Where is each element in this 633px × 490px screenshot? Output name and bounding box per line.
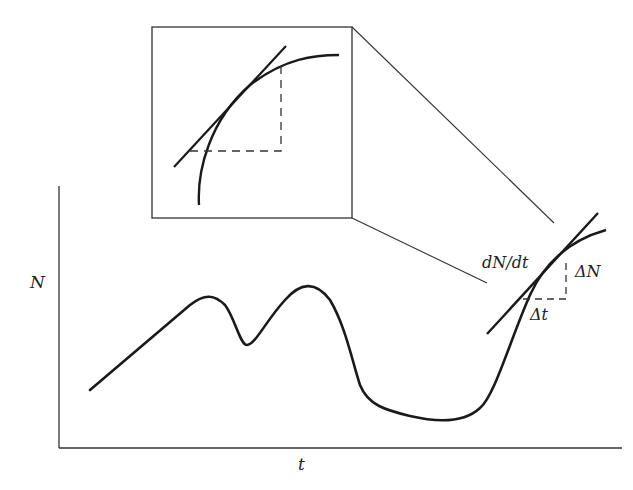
tangent-label: dN/dt xyxy=(482,253,529,272)
delta-triangle xyxy=(523,260,566,299)
delta-n-label: ΔN xyxy=(574,262,602,281)
y-axis-label: N xyxy=(29,272,46,292)
population-growth-diagram: N t dN/dt ΔN Δt xyxy=(0,0,633,490)
population-curve xyxy=(90,286,530,420)
zoom-connectors xyxy=(352,27,554,283)
x-axis-label: t xyxy=(298,454,305,474)
delta-t-label: Δt xyxy=(529,305,549,324)
